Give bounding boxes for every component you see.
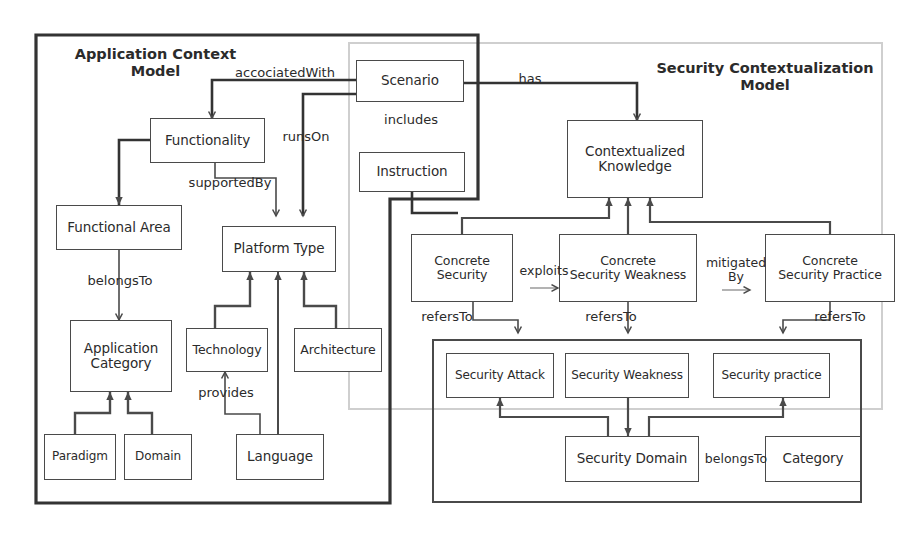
node-application-category[interactable]: Application Category [70,320,172,392]
node-label: Domain [135,450,181,463]
edge-label-supported-by: supportedBy [180,176,280,190]
node-label: Security Attack [455,369,545,382]
node-label: Application Category [84,341,158,371]
edge-label-accociated-with: accociatedWith [215,66,355,80]
node-label: Concrete Security Practice [778,254,882,282]
node-security-practice[interactable]: Security practice [713,353,830,398]
diagram-canvas: Security Contextualization Model Applica… [0,0,917,539]
node-label: Contextualized Knowledge [585,144,685,174]
node-label: Instruction [376,164,447,179]
container-title-security-contextualization-model: Security Contextualization Model [650,60,880,93]
node-security-attack[interactable]: Security Attack [446,353,554,398]
node-instruction[interactable]: Instruction [359,152,465,192]
node-security-domain[interactable]: Security Domain [565,436,699,482]
edge-label-provides: provides [182,386,270,400]
node-concrete-security-practice[interactable]: Concrete Security Practice [765,234,895,302]
edge-label-includes: includes [363,113,459,127]
edge-label-refers-to-left: refersTo [409,310,485,324]
node-label: Security Domain [577,451,688,466]
node-label: Scenario [381,73,439,88]
node-label: Concrete Security Weakness [570,254,686,282]
node-contextualized-knowledge[interactable]: Contextualized Knowledge [567,120,703,198]
node-label: Functionality [165,133,250,148]
node-domain[interactable]: Domain [124,434,192,480]
node-label: Security practice [722,369,822,382]
node-scenario[interactable]: Scenario [356,60,464,102]
node-concrete-security[interactable]: Concrete Security [411,234,513,302]
node-label: Paradigm [52,450,108,463]
node-paradigm[interactable]: Paradigm [44,434,116,480]
node-architecture[interactable]: Architecture [294,328,382,372]
node-functionality[interactable]: Functionality [150,118,265,163]
node-label: Concrete Security [434,254,490,282]
node-category[interactable]: Category [765,436,861,482]
node-label: Architecture [300,343,375,357]
node-functional-area[interactable]: Functional Area [56,205,182,250]
edge-label-belongs-to-security-domain: belongsTo [702,452,770,466]
node-label: Category [783,451,844,466]
edge-label-runs-on: runsOn [277,130,335,144]
node-concrete-security-weakness[interactable]: Concrete Security Weakness [559,234,697,302]
node-label: Platform Type [234,241,325,256]
edge-label-mitigated-by: mitigated By [700,256,772,284]
edge-label-refers-to-right: refersTo [800,310,880,324]
edge-label-has: has [505,72,555,86]
node-technology[interactable]: Technology [186,328,268,372]
node-platform-type[interactable]: Platform Type [222,226,336,272]
node-language[interactable]: Language [236,434,324,480]
node-security-weakness[interactable]: Security Weakness [565,353,689,398]
edge-label-exploits: exploits [514,264,574,278]
edge-label-belongs-to-functional-area: belongsTo [72,274,168,288]
edge-label-refers-to-mid: refersTo [571,310,651,324]
node-label: Security Weakness [571,369,683,382]
node-label: Language [247,449,313,464]
node-label: Technology [192,343,261,357]
node-label: Functional Area [67,220,170,235]
